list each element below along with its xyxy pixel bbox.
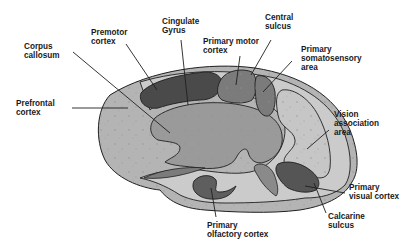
label-primary-olfactory-cortex: Primary olfactory cortex [207,221,268,239]
label-primary-visual-cortex: Primary visual cortex [349,183,399,201]
label-corpus-callosum: Corpus callosum [24,42,60,60]
label-prefrontal-cortex: Prefrontal cortex [16,99,55,117]
label-vision-association-area: Vision association area [334,110,379,137]
label-primary-motor-cortex: Primary motor cortex [203,37,259,55]
label-primary-somatosensory-area: Primary somatosensory area [301,45,362,72]
label-calcarine-sulcus: Calcarine sulcus [328,212,365,230]
label-premotor-cortex: Premotor cortex [91,28,127,46]
label-cingulate-gyrus: Cingulate Gyrus [162,17,199,35]
label-central-sulcus: Central sulcus [265,13,293,31]
